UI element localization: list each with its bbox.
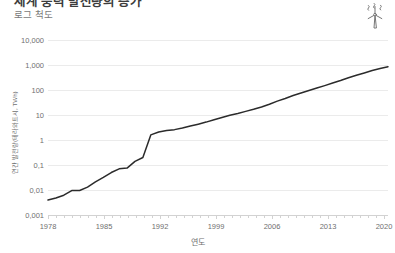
- x-tick-label: 1992: [140, 222, 180, 231]
- x-axis-title: 연도: [0, 236, 395, 247]
- x-tick-label: 1985: [84, 222, 124, 231]
- wind-generation-line: [48, 67, 388, 200]
- x-tick-label: 1999: [196, 222, 236, 231]
- x-tick-label: 1978: [28, 222, 68, 231]
- gridlines: [48, 40, 388, 190]
- y-tick-label: 100: [0, 86, 44, 95]
- wind-power-growth-chart: 세계 풍력 발전량의 증가 로그 척도: [0, 0, 395, 253]
- x-tick-label: 2006: [252, 222, 292, 231]
- chart-svg: [0, 0, 395, 253]
- y-tick-label: 0,01: [0, 186, 44, 195]
- y-tick-label: 0,1: [0, 161, 44, 170]
- x-tick-label: 2013: [308, 222, 348, 231]
- x-tick-label: 2020: [364, 222, 395, 231]
- y-tick-label: 1: [0, 136, 44, 145]
- y-tick-label: 0,001: [0, 211, 44, 220]
- y-axis-title: 연간 발전량(테라와트시, TWh): [10, 73, 19, 193]
- y-tick-label: 10,000: [0, 36, 44, 45]
- y-tick-label: 10: [0, 111, 44, 120]
- x-axis-ticks: [48, 215, 384, 219]
- y-tick-label: 1,000: [0, 61, 44, 70]
- plot-area: 10,000 1,000 100 10 1 0,1 0,01 0,001 197…: [0, 0, 395, 253]
